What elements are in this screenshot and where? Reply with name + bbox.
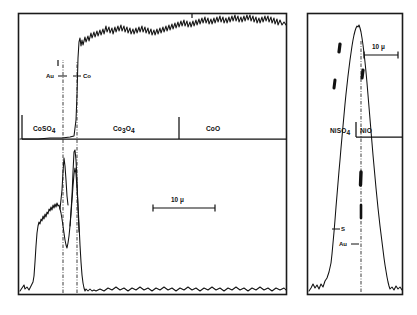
svg-text:NiO: NiO: [360, 127, 372, 134]
right-au-marker-segment: [361, 172, 362, 185]
left-phase-label-coso4: CoSO4: [33, 125, 56, 134]
right-panel-frame: [308, 14, 403, 295]
svg-text:CoSO4: CoSO4: [33, 125, 56, 134]
right-peak-blob-right: [362, 70, 363, 78]
right-scalebar-label: 10 μ: [372, 43, 385, 51]
left-upper-trace-co: [20, 15, 286, 139]
figure-root: Au Co CoSO4 Co3O4 CoO: [0, 0, 417, 315]
left-label-co: Co: [83, 73, 91, 79]
svg-text:NiSO4: NiSO4: [330, 127, 351, 136]
left-phase-label-coo: CoO: [206, 125, 220, 132]
figure-svg: Au Co CoSO4 Co3O4 CoO: [0, 0, 417, 315]
left-panel-frame: [19, 14, 287, 295]
left-phase-zone-bracket: [22, 115, 286, 139]
right-phase-label-nio: NiO: [360, 127, 372, 134]
left-lower-peak2-s: [70, 150, 79, 232]
svg-text:Co3O4: Co3O4: [113, 125, 135, 134]
left-panel: Au Co CoSO4 Co3O4 CoO: [19, 14, 287, 295]
left-scalebar: 10 μ: [153, 196, 215, 212]
right-label-s: S: [341, 226, 345, 232]
right-peak-blob-mid: [334, 80, 335, 88]
right-label-au: Au: [339, 241, 347, 247]
left-lower-trace-s: [20, 168, 286, 291]
right-panel: NiSO4 NiO S Au 10 μ: [308, 14, 403, 295]
left-phase-label-co3o4: Co3O4: [113, 125, 135, 134]
right-trace-s: [309, 25, 402, 291]
left-label-au: Au: [46, 73, 54, 79]
right-peak-blob-left: [339, 44, 340, 52]
right-phase-label-niso4: NiSO4: [330, 127, 351, 136]
left-lower-peak-s: [60, 158, 68, 209]
svg-text:CoO: CoO: [206, 125, 220, 132]
right-scalebar: 10 μ: [364, 43, 398, 59]
left-scalebar-label: 10 μ: [171, 196, 184, 204]
